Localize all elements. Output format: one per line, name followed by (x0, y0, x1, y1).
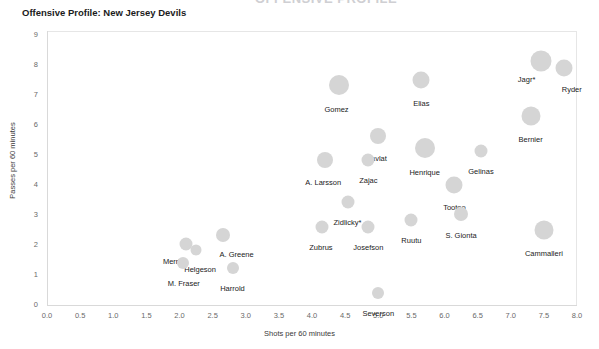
point-label: A. Greene (219, 250, 253, 259)
scatter-point[interactable] (362, 221, 375, 234)
clipped-super-title: OFFENSIVE PROFILE (255, 0, 455, 5)
y-tick-2: 2 (24, 240, 38, 249)
y-tick-9: 9 (24, 30, 38, 39)
scatter-point[interactable] (454, 207, 468, 221)
scatter-point[interactable] (413, 72, 430, 89)
x-tick-1.5: 1.5 (133, 311, 159, 320)
point-label: Cammalleri (525, 249, 563, 258)
point-label: Ryder (562, 85, 582, 94)
point-label: Zajac (359, 176, 377, 185)
point-label: Zubrus (309, 243, 332, 252)
point-label: Gomez (324, 105, 348, 114)
x-tick-2.5: 2.5 (200, 311, 226, 320)
point-label: Helgeson (184, 265, 216, 274)
x-tick-0.0: 0.0 (34, 311, 60, 320)
point-label: Henrique (409, 168, 439, 177)
scatter-point[interactable] (317, 152, 333, 168)
x-tick-6.0: 6.0 (432, 311, 458, 320)
point-label: M. Fraser (168, 279, 200, 288)
y-tick-5: 5 (24, 150, 38, 159)
x-tick-0.5: 0.5 (67, 311, 93, 320)
y-tick-7: 7 (24, 90, 38, 99)
y-axis-title: Passes per 60 minutes (8, 113, 17, 209)
scatter-point[interactable] (534, 221, 553, 240)
scatter-point[interactable] (177, 257, 189, 269)
scatter-point[interactable] (216, 228, 230, 242)
scatter-point[interactable] (370, 128, 386, 144)
y-tick-1: 1 (24, 270, 38, 279)
scatter-point[interactable] (474, 144, 487, 157)
scatter-point[interactable] (446, 177, 463, 194)
scatter-point[interactable] (362, 153, 375, 166)
point-label: Gelinas (468, 167, 493, 176)
y-tick-4: 4 (24, 180, 38, 189)
chart-screenshot: OFFENSIVE PROFILE Offensive Profile: New… (0, 0, 599, 349)
scatter-point[interactable] (555, 60, 572, 77)
y-axis-line (47, 31, 48, 306)
point-label: Zidlicky* (333, 218, 361, 227)
x-tick-2.0: 2.0 (167, 311, 193, 320)
y-tick-8: 8 (24, 60, 38, 69)
point-label: Josefson (353, 243, 383, 252)
x-tick-1.0: 1.0 (100, 311, 126, 320)
point-label: Ruutu (401, 236, 421, 245)
scatter-point[interactable] (521, 107, 540, 126)
scatter-point[interactable] (415, 138, 435, 158)
point-label: Bernier (519, 135, 543, 144)
x-tick-3.0: 3.0 (233, 311, 259, 320)
point-label: Jagr* (518, 75, 536, 84)
point-label: Elias (413, 99, 429, 108)
point-label: Severson (362, 309, 394, 318)
point-label: Harrold (220, 284, 245, 293)
scatter-point[interactable] (315, 221, 328, 234)
point-label: A. Larsson (305, 178, 341, 187)
x-tick-5.5: 5.5 (398, 311, 424, 320)
x-tick-4.5: 4.5 (332, 311, 358, 320)
x-tick-7.5: 7.5 (531, 311, 557, 320)
scatter-point[interactable] (372, 287, 384, 299)
y-tick-6: 6 (24, 120, 38, 129)
scatter-point[interactable] (227, 262, 239, 274)
x-axis-title: Shots per 60 minutes (0, 329, 599, 338)
scatter-point[interactable] (342, 195, 355, 208)
x-tick-3.5: 3.5 (266, 311, 292, 320)
scatter-point[interactable] (530, 50, 551, 71)
y-tick-3: 3 (24, 210, 38, 219)
x-tick-4.0: 4.0 (299, 311, 325, 320)
y-tick-0: 0 (24, 300, 38, 309)
chart-title: Offensive Profile: New Jersey Devils (22, 7, 186, 18)
x-tick-7.0: 7.0 (498, 311, 524, 320)
point-label: S. Gionta (445, 231, 476, 240)
scatter-point[interactable] (405, 213, 418, 226)
scatter-point[interactable] (191, 244, 202, 255)
plot-area (47, 31, 577, 306)
x-axis-line (47, 305, 577, 306)
scatter-point[interactable] (329, 75, 349, 95)
x-tick-8.0: 8.0 (564, 311, 590, 320)
x-tick-6.5: 6.5 (465, 311, 491, 320)
